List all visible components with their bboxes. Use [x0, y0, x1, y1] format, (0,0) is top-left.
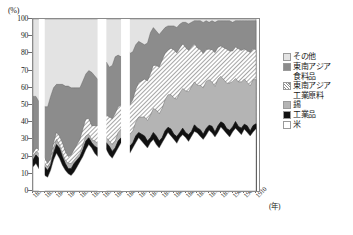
legend-item-5: 米	[283, 120, 353, 129]
legend-item-1: 東南アジア	[283, 62, 353, 71]
chart-figure: (%) 0102030405060708090100 1834183818421…	[0, 0, 353, 235]
y-axis-tick-0: 0	[4, 186, 28, 195]
legend-label: 東南アジア	[293, 81, 331, 90]
y-axis-tick-10: 10	[4, 168, 28, 177]
data-gap-2	[121, 19, 130, 191]
legend-label: 東南アジア	[293, 62, 331, 71]
y-axis-tick-30: 30	[4, 134, 28, 143]
y-axis-tick-40: 40	[4, 117, 28, 126]
chart-legend: その他東南アジア食料品東南アジア工業原料錫工業品米	[283, 52, 353, 130]
legend-label: その他	[293, 52, 316, 61]
legend-swatch-icon	[283, 63, 291, 71]
legend-swatch-icon	[283, 53, 291, 61]
legend-label: 米	[293, 120, 301, 129]
y-axis-tick-60: 60	[4, 82, 28, 91]
y-axis-tick-90: 90	[4, 31, 28, 40]
legend-swatch-icon	[283, 121, 291, 129]
y-axis-tick-20: 20	[4, 151, 28, 160]
legend-label-continued: 食料品	[293, 72, 353, 81]
legend-swatch-icon	[283, 82, 291, 90]
legend-item-3: 錫	[283, 100, 353, 109]
legend-label: 工業品	[293, 110, 316, 119]
legend-label: 錫	[293, 100, 301, 109]
y-axis-tick-50: 50	[4, 100, 28, 109]
plot-area	[32, 18, 260, 192]
data-gap-1	[98, 19, 107, 191]
legend-item-2: 東南アジア	[283, 81, 353, 90]
legend-item-0: その他	[283, 52, 353, 61]
y-axis-tick-70: 70	[4, 65, 28, 74]
y-axis-tick-80: 80	[4, 48, 28, 57]
legend-item-4: 工業品	[283, 110, 353, 119]
x-axis-unit-label: (年)	[269, 200, 280, 211]
y-axis-tick-100: 100	[4, 14, 28, 23]
legend-swatch-icon	[283, 101, 291, 109]
legend-swatch-icon	[283, 111, 291, 119]
legend-label-continued: 工業原料	[293, 91, 353, 100]
data-gap-0	[39, 19, 45, 191]
stacked-area-canvas	[33, 19, 259, 191]
